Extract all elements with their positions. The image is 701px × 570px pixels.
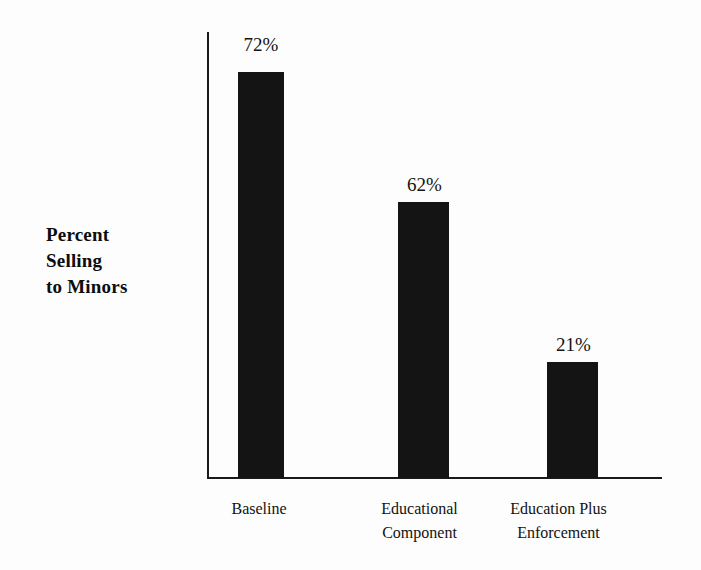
category-label-education-plus-enforcement: Education Plus Enforcement <box>502 497 615 545</box>
category-label-education-plus-enforcement-line-2: Enforcement <box>502 521 615 545</box>
plot-area: 72% Baseline 62% Educational Component 2… <box>0 0 701 570</box>
y-axis-line <box>207 32 209 478</box>
bar-educational-component <box>398 202 449 478</box>
bar-education-plus-enforcement <box>547 362 598 478</box>
bar-baseline <box>238 72 284 478</box>
category-label-baseline-line-1: Baseline <box>205 497 313 521</box>
bar-value-education-plus-enforcement: 21% <box>532 334 615 356</box>
bar-chart-figure: Percent Selling to Minors 72% Baseline 6… <box>0 0 701 570</box>
bar-value-baseline: 72% <box>222 34 300 56</box>
bar-value-educational-component: 62% <box>383 174 466 196</box>
category-label-education-plus-enforcement-line-1: Education Plus <box>502 497 615 521</box>
category-label-educational-component-line-1: Educational <box>363 497 476 521</box>
category-label-educational-component: Educational Component <box>363 497 476 545</box>
category-label-educational-component-line-2: Component <box>363 521 476 545</box>
category-label-baseline: Baseline <box>205 497 313 521</box>
